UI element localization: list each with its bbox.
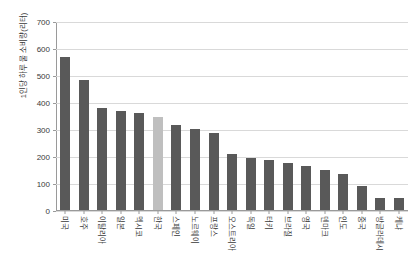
x-tick-label: 방글라데시 <box>375 216 386 251</box>
bar[interactable] <box>190 129 200 210</box>
bar-slot <box>390 22 409 210</box>
x-label-slot: 브라질 <box>278 216 297 272</box>
bar[interactable] <box>209 133 219 210</box>
x-label-slot: 터키 <box>260 216 279 272</box>
bar-slot <box>315 22 334 210</box>
bar-slot <box>149 22 168 210</box>
x-tick-mark <box>398 210 399 214</box>
x-tick-mark <box>176 210 177 214</box>
bar-slot <box>56 22 75 210</box>
x-label-slot: 호주 <box>75 216 94 272</box>
bar-slot <box>204 22 223 210</box>
bar-slot <box>167 22 186 210</box>
bar-slot <box>353 22 372 210</box>
bar[interactable] <box>79 80 89 210</box>
bar[interactable] <box>171 125 181 210</box>
bar-slot <box>223 22 242 210</box>
x-tick-label: 스페인 <box>171 216 182 237</box>
y-tick-label: 400 <box>16 99 50 108</box>
bar[interactable] <box>320 170 330 210</box>
x-label-slot: 인도 <box>334 216 353 272</box>
y-tick-label: 100 <box>16 180 50 189</box>
x-label-slot: 이탈리아 <box>93 216 112 272</box>
bar-chart: 1인당 하루 물 소비량(리터) 0100200300400500600700 … <box>0 0 418 272</box>
x-tick-mark <box>324 210 325 214</box>
x-tick-label: 일본 <box>115 216 126 230</box>
bar[interactable] <box>357 186 367 210</box>
x-tick-label: 독일 <box>245 216 256 230</box>
x-tick-mark <box>213 210 214 214</box>
y-tick-label: 600 <box>16 45 50 54</box>
x-label-slot: 프랑스 <box>204 216 223 272</box>
x-tick-label: 케냐 <box>393 216 404 230</box>
x-label-slot: 독일 <box>241 216 260 272</box>
x-label-slot: 한국 <box>149 216 168 272</box>
bar[interactable] <box>134 113 144 210</box>
x-tick-label: 프랑스 <box>208 216 219 237</box>
bar[interactable] <box>116 111 126 210</box>
y-tick-label: 200 <box>16 153 50 162</box>
x-tick-label: 브라질 <box>282 216 293 237</box>
x-label-slot: 미국 <box>56 216 75 272</box>
bar-slot <box>112 22 131 210</box>
x-tick-label: 덴마크 <box>319 216 330 237</box>
x-tick-mark <box>361 210 362 214</box>
x-label-slot: 덴마크 <box>315 216 334 272</box>
x-tick-mark <box>139 210 140 214</box>
bar[interactable] <box>264 160 274 210</box>
x-label-slot: 중국 <box>353 216 372 272</box>
x-label-slot: 방글라데시 <box>371 216 390 272</box>
x-tick-mark <box>306 210 307 214</box>
x-label-slot: 영국 <box>297 216 316 272</box>
x-tick-label: 노르웨이 <box>189 216 200 244</box>
x-label-slot: 오스트리아 <box>223 216 242 272</box>
x-label-slot: 멕시코 <box>130 216 149 272</box>
y-tick-label: 0 <box>16 207 50 216</box>
bar-slot <box>334 22 353 210</box>
bar-series <box>56 22 408 210</box>
y-tick-mark <box>53 211 56 212</box>
y-tick-label: 300 <box>16 126 50 135</box>
x-tick-label: 중국 <box>356 216 367 230</box>
bar[interactable] <box>338 174 348 210</box>
bar-slot <box>297 22 316 210</box>
x-axis-labels: 미국호주이탈리아일본멕시코한국스페인노르웨이프랑스오스트리아독일터키브라질영국덴… <box>56 216 408 272</box>
y-tick-label: 700 <box>16 18 50 27</box>
x-tick-mark <box>343 210 344 214</box>
x-tick-label: 이탈리아 <box>97 216 108 244</box>
x-label-slot: 스페인 <box>167 216 186 272</box>
x-tick-label: 미국 <box>60 216 71 230</box>
bar-slot <box>371 22 390 210</box>
x-tick-mark <box>194 210 195 214</box>
bar[interactable] <box>375 198 385 210</box>
bar[interactable] <box>153 117 163 210</box>
x-tick-mark <box>65 210 66 214</box>
bar[interactable] <box>301 166 311 210</box>
plot-area: 0100200300400500600700 <box>56 22 408 211</box>
bar[interactable] <box>394 198 404 210</box>
x-tick-label: 영국 <box>301 216 312 230</box>
y-tick-label: 500 <box>16 72 50 81</box>
bar[interactable] <box>227 154 237 210</box>
bar-slot <box>93 22 112 210</box>
bar-slot <box>278 22 297 210</box>
x-tick-mark <box>120 210 121 214</box>
bar[interactable] <box>97 108 107 210</box>
x-label-slot: 노르웨이 <box>186 216 205 272</box>
x-tick-mark <box>380 210 381 214</box>
x-tick-mark <box>269 210 270 214</box>
x-tick-label: 터키 <box>264 216 275 230</box>
x-tick-label: 멕시코 <box>134 216 145 237</box>
x-tick-mark <box>287 210 288 214</box>
bar[interactable] <box>283 163 293 210</box>
bar[interactable] <box>60 57 70 210</box>
x-tick-label: 인도 <box>338 216 349 230</box>
bar-slot <box>241 22 260 210</box>
x-tick-mark <box>83 210 84 214</box>
x-tick-mark <box>102 210 103 214</box>
bar[interactable] <box>246 158 256 210</box>
bar-slot <box>75 22 94 210</box>
x-tick-label: 오스트리아 <box>227 216 238 251</box>
x-label-slot: 케냐 <box>390 216 409 272</box>
x-tick-mark <box>157 210 158 214</box>
